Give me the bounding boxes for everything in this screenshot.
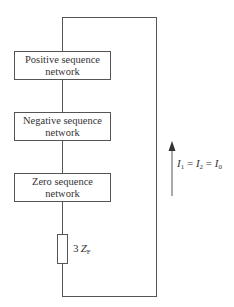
negative-box-line1: Negative sequence xyxy=(23,115,102,127)
equals-1: = xyxy=(184,157,196,169)
fault-impedance-label: 3 ZF xyxy=(73,242,91,256)
left-wire-pos-neg xyxy=(62,79,63,112)
left-wire-neg-zero xyxy=(62,140,63,173)
negative-sequence-network-box: Negative sequence network xyxy=(14,112,111,141)
sequence-network-diagram: Positive sequence network Negative seque… xyxy=(0,0,234,307)
fault-impedance-resistor xyxy=(57,234,68,264)
left-wire-top xyxy=(62,17,63,51)
zero-sequence-network-box: Zero sequence network xyxy=(14,173,111,202)
current-i0-sub: 0 xyxy=(218,163,222,171)
left-wire-res-bottom xyxy=(62,263,63,297)
left-wire-zero-res xyxy=(62,201,63,234)
top-wire xyxy=(62,17,157,18)
impedance-subscript: F xyxy=(87,248,91,256)
impedance-coef: 3 xyxy=(73,242,79,254)
right-wire xyxy=(156,17,157,297)
current-arrow-icon xyxy=(167,141,177,197)
bottom-wire xyxy=(62,296,157,297)
positive-box-line1: Positive sequence xyxy=(25,54,100,66)
current-equality-label: I1 = I2 = I0 xyxy=(177,157,222,171)
positive-box-line2: network xyxy=(25,66,100,78)
zero-box-line2: network xyxy=(32,188,93,200)
negative-box-line2: network xyxy=(23,127,102,139)
zero-box-line1: Zero sequence xyxy=(32,176,93,188)
equals-2: = xyxy=(203,157,215,169)
positive-sequence-network-box: Positive sequence network xyxy=(14,51,111,80)
